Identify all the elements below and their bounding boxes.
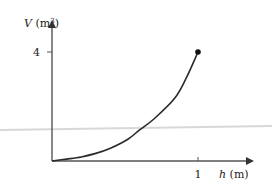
x-axis-variable: h <box>219 168 226 181</box>
x-axis-label: h (m) <box>219 168 249 181</box>
y-tick-label: 4 <box>33 46 40 59</box>
chart: 14 V (m3) h (m) <box>0 0 272 191</box>
background-stray-line <box>0 126 272 130</box>
series-curve <box>52 52 198 161</box>
y-axis-unit-close: ) <box>55 17 59 30</box>
y-axis-label: V (m3) <box>24 17 59 30</box>
x-axis-unit: (m) <box>226 168 249 181</box>
endpoint-marker <box>195 49 201 55</box>
y-axis-unit: (m <box>32 17 51 30</box>
x-tick-label: 1 <box>195 168 202 181</box>
